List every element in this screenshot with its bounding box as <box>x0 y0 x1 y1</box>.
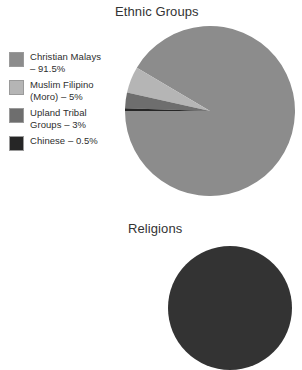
legend-label-muslim-filipino: Muslim Filipino (Moro) – 5% <box>30 79 94 102</box>
legend-label-christian-malays: Christian Malays – 91.5% <box>30 51 101 74</box>
pie-chart-ethnic-groups <box>125 26 295 196</box>
legend-label-chinese: Chinese – 0.5% <box>30 135 98 147</box>
legend-swatch-icon-muslim-filipino <box>9 80 24 95</box>
legend-label-upland-tribal-groups: Upland Tribal Groups – 3% <box>30 107 87 130</box>
legend-ethnic-groups: Christian Malays – 91.5% Muslim Filipino… <box>9 51 121 156</box>
legend-item-upland-tribal-groups: Upland Tribal Groups – 3% <box>9 107 121 130</box>
chart-title-ethnic-groups: Ethnic Groups <box>115 4 199 19</box>
legend-item-muslim-filipino: Muslim Filipino (Moro) – 5% <box>9 79 121 102</box>
pie-religions-svg <box>168 246 292 370</box>
pie-ethnic-svg <box>125 26 295 196</box>
legend-label-line: Groups – 3% <box>30 119 87 131</box>
legend-label-line: Chinese – 0.5% <box>30 135 98 147</box>
legend-swatch-icon-chinese <box>9 136 24 151</box>
pie-chart-religions <box>168 246 292 370</box>
legend-label-line: Muslim Filipino <box>30 79 94 91</box>
legend-label-line: – 91.5% <box>30 63 101 75</box>
pie-slices-group <box>125 26 295 196</box>
pie-slice-religions <box>168 246 292 370</box>
legend-item-christian-malays: Christian Malays – 91.5% <box>9 51 121 74</box>
legend-item-chinese: Chinese – 0.5% <box>9 135 121 151</box>
chart-title-religions: Religions <box>128 221 182 236</box>
legend-swatch-icon-christian-malays <box>9 52 24 67</box>
legend-label-line: Christian Malays <box>30 51 101 63</box>
legend-label-line: Upland Tribal <box>30 107 87 119</box>
legend-swatch-icon-upland-tribal-groups <box>9 108 24 123</box>
legend-label-line: (Moro) – 5% <box>30 91 94 103</box>
pie-slice-christian-malays <box>125 26 295 196</box>
